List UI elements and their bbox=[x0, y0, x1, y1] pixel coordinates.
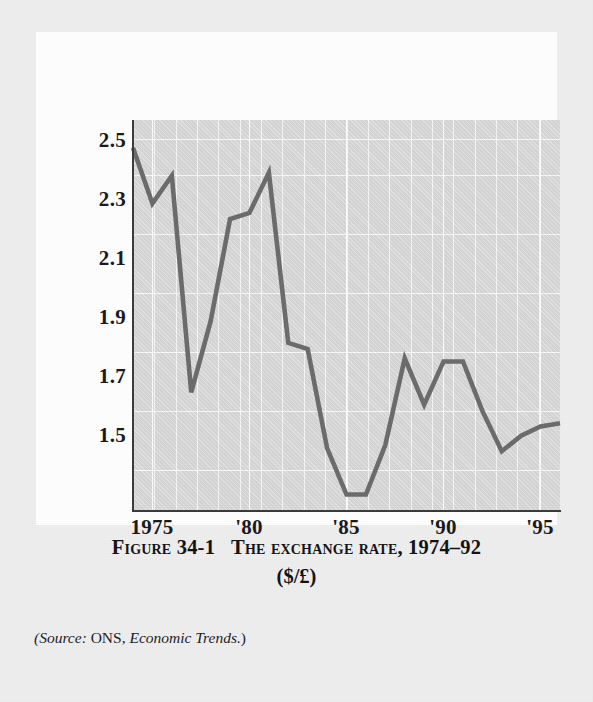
y-tick-label-1-9: 1.9 bbox=[68, 307, 126, 328]
source-prefix: (Source: bbox=[34, 629, 87, 646]
figure-subtitle: ($/£) bbox=[36, 562, 557, 592]
y-axis-line bbox=[132, 120, 134, 511]
figure-title: The exchange rate, 1974–92 bbox=[231, 536, 481, 558]
y-tick-label-2-1: 2.1 bbox=[68, 248, 126, 269]
y-axis-tick-labels: 2.5 2.3 2.1 1.9 1.7 1.5 bbox=[64, 32, 126, 525]
y-tick-label-2-3: 2.3 bbox=[68, 189, 126, 210]
source-suffix: ) bbox=[241, 629, 246, 646]
source-publication: Economic Trends. bbox=[129, 629, 240, 646]
y-tick-label-2-5: 2.5 bbox=[68, 130, 126, 151]
source-organisation: ONS, bbox=[91, 629, 126, 646]
figure-caption: Figure 34-1The exchange rate, 1974–92 ($… bbox=[36, 534, 557, 591]
chart-card: 2.5 2.3 2.1 1.9 1.7 1.5 1975 '80 '85 '90… bbox=[36, 32, 557, 525]
y-tick-label-1-7: 1.7 bbox=[68, 366, 126, 387]
figure-source: (Source: ONS, Economic Trends.) bbox=[34, 629, 246, 647]
figure-number: Figure 34-1 bbox=[112, 536, 215, 558]
figure-page: 2.5 2.3 2.1 1.9 1.7 1.5 1975 '80 '85 '90… bbox=[0, 0, 593, 702]
x-axis-line bbox=[132, 510, 561, 512]
caption-title-line: Figure 34-1The exchange rate, 1974–92 bbox=[36, 534, 557, 562]
exchange-rate-line-series bbox=[133, 120, 560, 510]
plot-area bbox=[133, 120, 560, 510]
y-tick-label-1-5: 1.5 bbox=[68, 425, 126, 446]
series-polyline bbox=[133, 148, 560, 495]
